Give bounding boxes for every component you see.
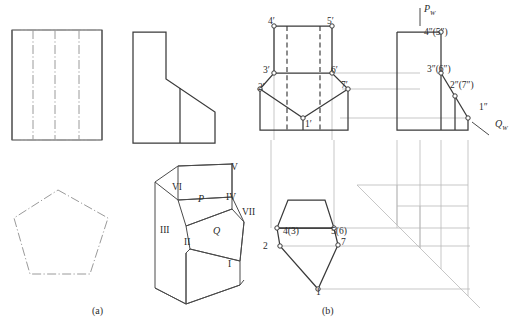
vertex-7 bbox=[336, 243, 340, 247]
front-view-label-7: 7′ bbox=[341, 80, 348, 90]
vertex-1dprime bbox=[466, 116, 470, 120]
Qw-axis-leader bbox=[472, 122, 489, 135]
pictorial-label-p: P bbox=[197, 193, 204, 204]
stepped-front-view bbox=[133, 32, 215, 143]
pictorial-label-q: Q bbox=[213, 225, 221, 236]
panel-b bbox=[258, 8, 489, 308]
pictorial-bottom-left-edge bbox=[155, 288, 186, 304]
rectangular-top-view bbox=[12, 30, 102, 140]
axis-label-qw: QW bbox=[495, 118, 508, 131]
panel-a bbox=[12, 30, 244, 304]
pictorial-label-v: V bbox=[231, 162, 238, 172]
front-view-label-1: 1′ bbox=[305, 119, 312, 129]
side-view-label-1: 1″ bbox=[479, 102, 488, 112]
top-view-label-7: 7 bbox=[341, 237, 346, 247]
axis-label-qw-subscript: W bbox=[502, 124, 508, 131]
front-view-label-4: 4′ bbox=[268, 16, 275, 26]
pictorial-edge-II bbox=[186, 249, 190, 253]
vertex-3prime bbox=[272, 71, 276, 75]
pentagon-bottom-left-view bbox=[14, 190, 108, 274]
tv-pentagon bbox=[277, 228, 338, 289]
pictorial-top-slab bbox=[155, 164, 232, 200]
front-view-label-2: 2′ bbox=[258, 82, 265, 92]
side-view-label-2-7: 2″(7″) bbox=[450, 80, 474, 91]
vertex-4-3 bbox=[275, 226, 279, 230]
front-view-label-5: 5′ bbox=[327, 16, 334, 26]
pictorial-bottom-edge bbox=[186, 280, 244, 304]
top-view-label-1: 1 bbox=[316, 287, 321, 297]
pictorial-label-vii: VII bbox=[242, 207, 255, 217]
front-view-label-6: 6′ bbox=[331, 65, 338, 75]
pictorial-label-vi: VI bbox=[172, 182, 182, 192]
pictorial-label-ii: II bbox=[184, 237, 190, 247]
tv-trapezoid bbox=[277, 200, 334, 228]
vertex-2dprime-7dprime bbox=[453, 94, 457, 98]
front-view-label-3: 3′ bbox=[263, 65, 270, 75]
pictorial-top-back-edge bbox=[178, 164, 232, 166]
pentagon-outline bbox=[14, 190, 108, 274]
top-view-label-4-3: 4(3) bbox=[283, 226, 299, 237]
mitre-45-line bbox=[357, 185, 480, 308]
pictorial-right-edge bbox=[240, 222, 244, 261]
side-view-label-4-5: 4″(5″) bbox=[424, 27, 448, 38]
vertex-2 bbox=[278, 244, 282, 248]
pictorial-label-i: I bbox=[228, 259, 231, 269]
caption-b: (b) bbox=[322, 305, 334, 317]
fv-vee-edges bbox=[260, 89, 348, 118]
top-view-label-5-6: 5(6) bbox=[331, 226, 347, 237]
top-view-label-2: 2 bbox=[263, 241, 268, 251]
front-view-outline bbox=[133, 32, 215, 143]
front-view-projection bbox=[258, 24, 350, 130]
axis-label-pw-subscript: W bbox=[430, 9, 436, 16]
labels-layer: VVIIVVIIIIIIIIPQ4′5′3′6′2′7′1′4″(5″)3″(6… bbox=[92, 3, 508, 317]
pictorial-label-iii: III bbox=[160, 225, 170, 235]
pictorial-lower-face bbox=[186, 249, 240, 304]
axis-label-pw: PW bbox=[423, 3, 436, 16]
side-view-label-3-6: 3″(6″) bbox=[427, 64, 451, 75]
fv-upper-block bbox=[274, 26, 332, 73]
top-view-projection bbox=[275, 200, 340, 291]
pictorial-label-iv: IV bbox=[226, 192, 236, 202]
caption-a: (a) bbox=[92, 305, 103, 317]
fv-lower-block bbox=[260, 89, 348, 130]
top-view-outline bbox=[12, 30, 102, 140]
technical-drawing-figure: VVIIVVIIIIIIIIPQ4′5′3′6′2′7′1′4″(5″)3″(6… bbox=[0, 0, 519, 330]
